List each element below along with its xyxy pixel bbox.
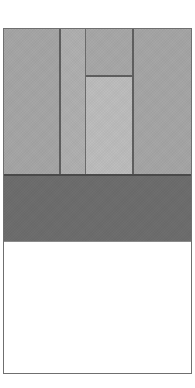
middle-dark-band: [4, 174, 191, 241]
figure-canvas: [0, 0, 195, 388]
texture-overlay: [86, 77, 132, 174]
figure-frame: [3, 28, 192, 374]
texture-overlay: [134, 29, 191, 174]
narrow-column-panel: [59, 29, 86, 174]
right-wide-panel: [134, 29, 191, 174]
upper-light-band: [4, 29, 191, 174]
inner-lower-sub-panel: [86, 75, 132, 174]
texture-overlay: [4, 176, 191, 241]
inner-panel: [86, 29, 134, 174]
texture-overlay: [61, 29, 85, 174]
left-wide-panel: [4, 29, 59, 174]
texture-overlay: [4, 29, 59, 174]
lower-white-band: [4, 241, 191, 373]
